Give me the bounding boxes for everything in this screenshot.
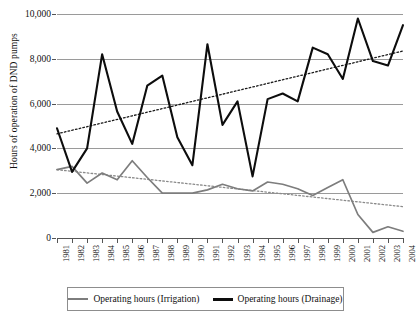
x-tick-mark <box>132 238 133 243</box>
x-tick-mark <box>373 238 374 243</box>
y-tick-label: 6,000 <box>1 99 51 109</box>
y-tick-label: 8,000 <box>1 54 51 64</box>
x-tick-label: 1988 <box>166 245 176 262</box>
plot-area <box>57 14 403 238</box>
x-tick-mark <box>253 238 254 243</box>
x-tick-mark <box>283 238 284 243</box>
x-tick-label: 1989 <box>181 245 191 262</box>
x-tick-label: 1982 <box>76 245 86 262</box>
x-tick-mark <box>147 238 148 243</box>
legend-item-drainage: Operating hours (Drainage) <box>213 294 343 304</box>
legend-line-icon-drainage <box>213 298 233 301</box>
x-tick-mark <box>388 238 389 243</box>
x-tick-mark <box>222 238 223 243</box>
y-tick-label: 2,000 <box>1 188 51 198</box>
x-tick-label: 1997 <box>302 245 312 262</box>
x-tick-mark <box>313 238 314 243</box>
x-tick-label: 1995 <box>272 245 282 262</box>
x-tick-label: 1984 <box>106 245 116 262</box>
y-tick-mark <box>52 104 56 105</box>
chart-legend: Operating hours (Irrigation) Operating h… <box>67 287 344 311</box>
x-tick-mark <box>177 238 178 243</box>
x-tick-label: 1986 <box>136 245 146 262</box>
x-tick-label: 1996 <box>287 245 297 262</box>
x-tick-label: 1994 <box>257 245 267 262</box>
series-line <box>57 161 403 233</box>
x-tick-label: 1999 <box>332 245 342 262</box>
x-tick-label: 1998 <box>317 245 327 262</box>
legend-item-irrigation: Operating hours (Irrigation) <box>68 294 199 304</box>
y-tick-label: 10,000 <box>1 9 51 19</box>
x-tick-label: 2004 <box>407 245 417 262</box>
x-tick-label: 1991 <box>211 245 221 262</box>
y-tick-label: 0 <box>1 233 51 243</box>
x-tick-mark <box>102 238 103 243</box>
x-tick-label: 2000 <box>347 245 357 262</box>
x-tick-label: 2003 <box>392 245 402 262</box>
x-tick-mark <box>403 238 404 243</box>
y-tick-mark <box>52 59 56 60</box>
x-tick-label: 1993 <box>242 245 252 262</box>
x-tick-mark <box>117 238 118 243</box>
x-tick-label: 2001 <box>362 245 372 262</box>
legend-label-drainage: Operating hours (Drainage) <box>238 294 343 304</box>
x-tick-label: 2002 <box>377 245 387 262</box>
x-tick-mark <box>72 238 73 243</box>
x-tick-mark <box>87 238 88 243</box>
x-tick-mark <box>298 238 299 243</box>
x-tick-mark <box>57 238 58 243</box>
y-tick-mark <box>52 193 56 194</box>
x-tick-mark <box>358 238 359 243</box>
x-axis-labels: 1981198219831984198519861987198819891990… <box>57 245 403 281</box>
legend-label-irrigation: Operating hours (Irrigation) <box>93 294 199 304</box>
y-tick-mark <box>52 238 56 239</box>
x-tick-mark <box>238 238 239 243</box>
y-tick-mark <box>52 14 56 15</box>
x-tick-mark <box>328 238 329 243</box>
x-tick-label: 1983 <box>91 245 101 262</box>
x-tick-label: 1987 <box>151 245 161 262</box>
y-tick-label: 4,000 <box>1 143 51 153</box>
series-lines <box>57 14 403 238</box>
y-tick-mark <box>52 148 56 149</box>
x-tick-mark <box>268 238 269 243</box>
series-line <box>57 18 403 176</box>
x-tick-label: 1992 <box>226 245 236 262</box>
x-tick-label: 1981 <box>61 245 71 262</box>
x-tick-mark <box>343 238 344 243</box>
legend-line-icon-irrigation <box>68 298 88 300</box>
x-tick-mark <box>192 238 193 243</box>
x-tick-label: 1985 <box>121 245 131 262</box>
x-tick-mark <box>207 238 208 243</box>
x-tick-mark <box>162 238 163 243</box>
trendline <box>57 51 403 134</box>
x-tick-label: 1990 <box>196 245 206 262</box>
